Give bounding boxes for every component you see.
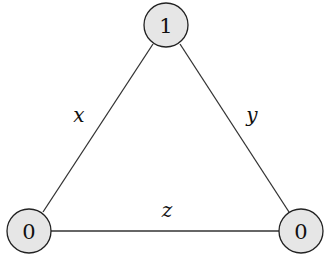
node-bottom-right-label: 0 [294, 220, 307, 244]
node-bottom-left: 0 [7, 209, 51, 253]
node-bottom-right: 0 [279, 209, 323, 253]
triangle-graph: x y z 1 0 0 [0, 0, 328, 274]
node-top: 1 [144, 3, 188, 47]
edge-label-y: y [245, 103, 258, 127]
node-top-label: 1 [159, 14, 172, 38]
edge-x [43, 44, 153, 212]
edge-label-x: x [73, 103, 84, 127]
edge-label-z: z [161, 198, 173, 222]
edge-y [180, 44, 289, 212]
node-bottom-left-label: 0 [22, 220, 35, 244]
